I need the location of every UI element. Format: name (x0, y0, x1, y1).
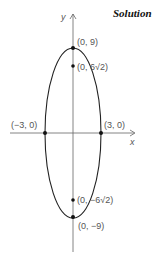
ellipse-diagram: Solution y x (0, 9) (0, 6√2) (−3, 0) (3,… (0, 0, 153, 265)
label-left: (−3, 0) (11, 120, 37, 130)
label-bottom-focus: (0, −6√2) (77, 195, 113, 205)
title: Solution (113, 7, 152, 19)
point-bottom-vertex (71, 215, 75, 219)
label-bottom-vertex: (0, −9) (78, 221, 104, 231)
x-axis-label: x (129, 137, 135, 147)
point-bottom-focus (71, 198, 75, 202)
point-right (99, 131, 103, 135)
point-top-vertex (71, 46, 75, 50)
label-top-vertex: (0, 9) (77, 37, 98, 47)
y-axis-label: y (60, 12, 66, 22)
label-top-focus: (0, 6√2) (77, 62, 108, 72)
point-top-focus (71, 64, 75, 68)
point-left (43, 131, 47, 135)
label-right: (3, 0) (104, 120, 125, 130)
